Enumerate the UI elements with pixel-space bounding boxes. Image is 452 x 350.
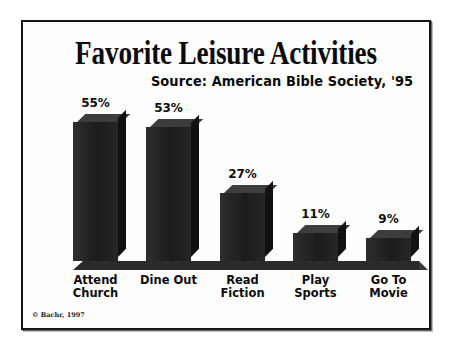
bar-group: 9%Go ToMovie: [366, 238, 411, 261]
bar-front-face: [220, 193, 265, 261]
bar-category-label-line: Fiction: [220, 287, 264, 300]
bar-category-label: PlaySports: [294, 274, 336, 299]
bar-front-face: [293, 233, 338, 261]
bar-value-label: 53%: [154, 102, 183, 114]
bar-group: 53%Dine Out: [146, 127, 191, 261]
chart-title: Favorite Leisure Activities: [64, 36, 389, 70]
bar-category-label-line: Dine Out: [140, 274, 197, 287]
bar-series: 55%AttendChurch53%Dine Out27%ReadFiction…: [73, 109, 419, 261]
floor-right-bevel: [419, 255, 428, 270]
bar-category-label-line: Movie: [369, 287, 408, 300]
bar-value-label: 11%: [301, 208, 330, 220]
bar-front-face: [366, 238, 411, 261]
bar-value-label: 55%: [81, 97, 110, 109]
bar-value-label: 9%: [378, 213, 398, 225]
bar-side-face: [338, 221, 346, 257]
bar-side-face: [191, 115, 199, 257]
copyright-credit: © Bachr, 1997: [32, 311, 85, 319]
bar-category-label: AttendChurch: [73, 274, 119, 299]
bar-category-label-line: Church: [73, 287, 119, 300]
bar-category-label: ReadFiction: [220, 274, 264, 299]
bar-group: 27%ReadFiction: [220, 193, 265, 261]
bar-category-label-line: Go To: [369, 274, 408, 287]
bar-value-label: 27%: [228, 168, 257, 180]
floor-left-bevel: [73, 261, 83, 270]
bar-group: 11%PlaySports: [293, 233, 338, 261]
chart-image: Favorite Leisure Activities Source: Amer…: [0, 0, 452, 350]
bar-category-label-line: Read: [220, 274, 264, 287]
bar-category-label-line: Sports: [294, 287, 336, 300]
plot-area: 55%AttendChurch53%Dine Out27%ReadFiction…: [55, 100, 425, 310]
chart-subtitle: Source: American Bible Society, '95: [151, 74, 413, 89]
bar-category-label: Go ToMovie: [369, 274, 408, 299]
floor-slab: [83, 261, 419, 270]
chart-baseline-floor: [73, 261, 419, 270]
bar-group: 55%AttendChurch: [73, 122, 118, 261]
bar-front-face: [73, 122, 118, 261]
bar-category-label-line: Play: [294, 274, 336, 287]
bar-side-face: [265, 181, 273, 257]
bar-category-label: Dine Out: [140, 274, 197, 287]
bar-category-label-line: Attend: [73, 274, 119, 287]
bar-front-face: [146, 127, 191, 261]
chart-frame: Favorite Leisure Activities Source: Amer…: [21, 20, 431, 330]
bar-side-face: [118, 110, 126, 257]
